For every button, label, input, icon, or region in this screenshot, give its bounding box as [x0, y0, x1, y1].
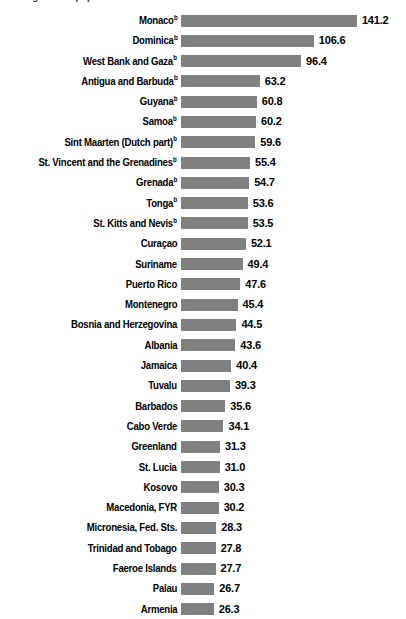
bar-row: Albania43.6	[0, 339, 406, 359]
bar-value: 49.4	[248, 258, 269, 271]
bar-label: Tuvalu	[148, 379, 177, 392]
footnote-marker: b	[173, 34, 177, 41]
bar-label: Monacob	[138, 14, 177, 27]
bar-row: Faeroe Islands27.7	[0, 562, 406, 582]
bar	[181, 522, 216, 534]
bar-label: Sint Maarten (Dutch part)b	[65, 136, 177, 149]
bar-row: St. Kitts and Nevisb53.5	[0, 217, 406, 237]
bar-label: Puerto Rico	[126, 278, 177, 291]
bar-row: Montenegro45.4	[0, 298, 406, 318]
bar-label: Cabo Verde	[127, 420, 177, 433]
bar-value: 30.3	[224, 481, 245, 494]
bar-value: 47.6	[245, 278, 266, 291]
bar-row: Trinidad and Tobago27.8	[0, 542, 406, 562]
bar-row: Macedonia, FYR30.2	[0, 501, 406, 521]
bar	[181, 299, 238, 311]
bar-label: Montenegro	[125, 298, 177, 311]
bar-label: Kosovo	[143, 481, 177, 494]
bar-row: Curaçao52.1	[0, 237, 406, 257]
footnote-marker: b	[173, 74, 177, 81]
bar-value: 44.5	[241, 318, 262, 331]
bar-label: Faeroe Islands	[113, 562, 177, 575]
bar-value: 28.3	[221, 521, 242, 534]
bar-row: Kosovo30.3	[0, 481, 406, 501]
bar-row: Tongab53.6	[0, 197, 406, 217]
bar-value: 26.3	[219, 603, 240, 616]
bar	[181, 177, 249, 189]
bar	[181, 400, 225, 412]
bar-rows: Monacob141.2Dominicab106.6West Bank and …	[0, 14, 406, 619]
footnote-marker: b	[173, 156, 177, 163]
bar	[181, 35, 314, 47]
bar-value: 43.6	[240, 339, 261, 352]
bar-value: 60.2	[261, 115, 282, 128]
bar-value: 106.6	[319, 34, 346, 47]
bar	[181, 603, 214, 615]
bar-row: Guyanab60.8	[0, 95, 406, 115]
bar-value: 40.4	[236, 359, 257, 372]
bar-label: Antigua and Barbudab	[81, 75, 177, 88]
bar-label: St. Kitts and Nevisb	[94, 217, 177, 230]
bar-label: Samoab	[143, 115, 177, 128]
bar	[181, 136, 255, 148]
bar-label: Suriname	[135, 258, 177, 271]
bar-label: Jamaica	[141, 359, 177, 372]
bar	[181, 217, 248, 229]
bar-value: 59.6	[260, 136, 281, 149]
bar-label: West Bank and Gazab	[83, 55, 177, 68]
bar	[181, 481, 219, 493]
bar	[181, 542, 216, 554]
bar-row: Suriname49.4	[0, 258, 406, 278]
bar-label: Tongab	[146, 197, 177, 210]
bar-value: 63.2	[265, 75, 286, 88]
bar-row: Sint Maarten (Dutch part)b59.6	[0, 136, 406, 156]
bar-label: Trinidad and Tobago	[88, 542, 177, 555]
bar-row: Palau26.7	[0, 582, 406, 602]
bar-row: Armenia26.3	[0, 603, 406, 619]
bar-row: Grenadab54.7	[0, 176, 406, 196]
bar	[181, 157, 250, 169]
footnote-marker: b	[173, 135, 177, 142]
bar	[181, 461, 220, 473]
bar-value: 54.7	[254, 176, 275, 189]
bar-label: Greenland	[132, 440, 177, 453]
bar	[181, 116, 256, 128]
bar-value: 141.2	[362, 14, 389, 27]
bar	[181, 563, 216, 575]
bar-value: 27.8	[221, 542, 242, 555]
bar-row: Samoab60.2	[0, 115, 406, 135]
bar-label: Macedonia, FYR	[106, 501, 177, 514]
bar-value: 35.6	[230, 400, 251, 413]
bar-row: St. Lucia31.0	[0, 461, 406, 481]
bar	[181, 380, 230, 392]
bar-label: Albania	[144, 339, 177, 352]
bar	[181, 319, 236, 331]
bar-label: Palau	[153, 582, 177, 595]
bar-label: St. Vincent and the Grenadinesb	[39, 156, 177, 169]
bar-value: 31.0	[225, 461, 246, 474]
footnote-marker: b	[173, 54, 177, 61]
bar	[181, 441, 220, 453]
footnote-marker: b	[173, 95, 177, 102]
bar	[181, 360, 231, 372]
bar	[181, 258, 243, 270]
bar-row: Barbados35.6	[0, 400, 406, 420]
bar-value: 53.6	[253, 197, 274, 210]
footnote-marker: b	[173, 196, 177, 203]
bar-row: Puerto Rico47.6	[0, 278, 406, 298]
bar-row: Monacob141.2	[0, 14, 406, 34]
footnote-marker: b	[173, 176, 177, 183]
bar-row: Antigua and Barbudab63.2	[0, 75, 406, 95]
bar	[181, 583, 214, 595]
bar-value: 53.5	[253, 217, 274, 230]
bar-value: 55.4	[255, 156, 276, 169]
bar	[181, 420, 223, 432]
bar-value: 27.7	[221, 562, 242, 575]
bar	[181, 15, 357, 27]
bar-value: 34.1	[228, 420, 249, 433]
bar-value: 96.4	[306, 55, 327, 68]
bar	[181, 55, 301, 67]
bar-label: Barbados	[135, 400, 177, 413]
bar-value: 39.3	[235, 379, 256, 392]
